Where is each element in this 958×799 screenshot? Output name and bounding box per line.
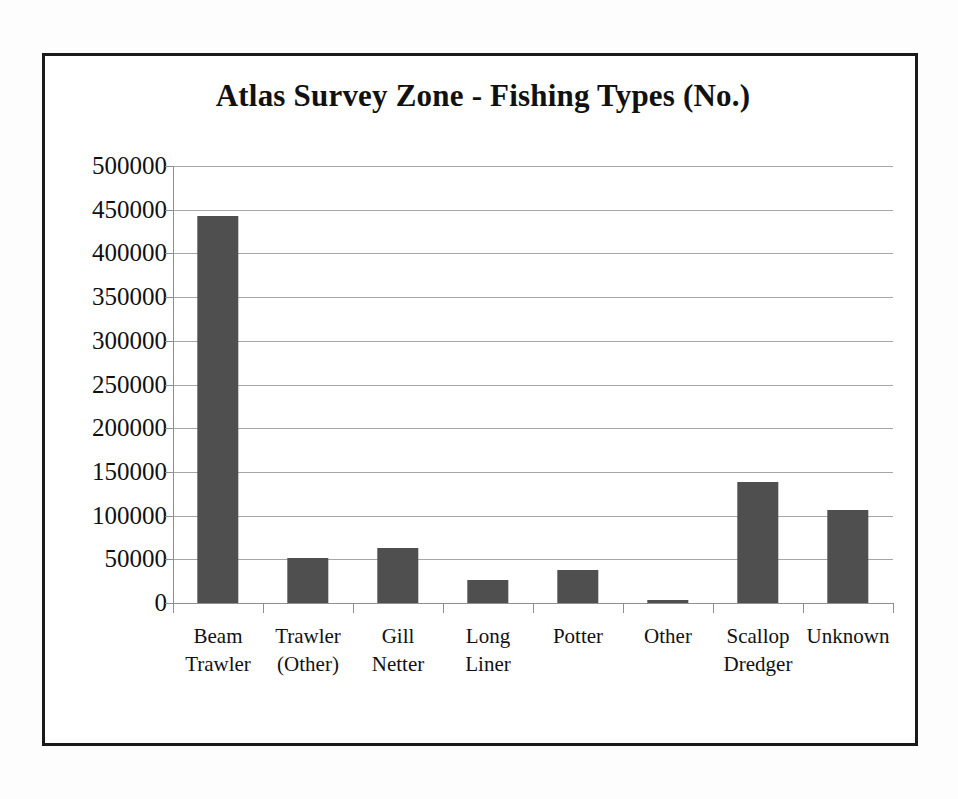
x-axis-category-label-line: Long — [443, 622, 533, 650]
scanned-page-background: Atlas Survey Zone - Fishing Types (No.) … — [0, 0, 958, 799]
y-axis-tick-label: 200000 — [92, 414, 167, 442]
x-axis-category-label-line: Trawler — [173, 650, 263, 678]
x-axis-category-label: BeamTrawler — [173, 622, 263, 678]
y-axis-tick-mark — [165, 297, 174, 298]
bar-slot — [623, 166, 713, 603]
x-axis-category-label-line: Beam — [173, 622, 263, 650]
x-axis-category-label-line: Unknown — [803, 622, 893, 650]
x-axis-tick-mark — [803, 604, 804, 613]
bar-slot — [533, 166, 623, 603]
x-axis-tick-mark — [893, 604, 894, 613]
bar[interactable] — [197, 216, 238, 603]
y-axis-tick-mark — [165, 253, 174, 254]
y-axis-tick-mark — [165, 341, 174, 342]
x-axis-tick-mark — [533, 604, 534, 613]
y-axis-tick-mark — [165, 428, 174, 429]
x-axis-tick-mark — [173, 604, 174, 613]
bar[interactable] — [827, 510, 868, 603]
x-axis-category-label-line: Trawler — [263, 622, 353, 650]
y-axis-tick-label: 250000 — [92, 371, 167, 399]
y-axis-tick-mark — [165, 559, 174, 560]
bar-slot — [803, 166, 893, 603]
x-axis-category-label: Trawler(Other) — [263, 622, 353, 678]
y-axis-tick-label: 450000 — [92, 196, 167, 224]
y-axis-tick-mark — [165, 516, 174, 517]
x-axis-category-label: Other — [623, 622, 713, 650]
bar-series — [173, 166, 893, 603]
x-axis-category-label-line: Gill Netter — [353, 622, 443, 678]
bar-slot — [713, 166, 803, 603]
bar-slot — [443, 166, 533, 603]
chart-title: Atlas Survey Zone - Fishing Types (No.) — [45, 78, 921, 114]
y-axis-tick-mark — [165, 385, 174, 386]
bar[interactable] — [287, 558, 328, 603]
chart-figure: Atlas Survey Zone - Fishing Types (No.) … — [45, 56, 921, 749]
y-axis-tick-mark — [165, 166, 174, 167]
bar-slot — [353, 166, 443, 603]
y-axis-tick-label: 400000 — [92, 239, 167, 267]
x-axis-category-label: Unknown — [803, 622, 893, 650]
y-axis-tick-mark — [165, 210, 174, 211]
x-axis-category-label-line: Potter — [533, 622, 623, 650]
bar-slot — [263, 166, 353, 603]
x-axis-tick-mark — [353, 604, 354, 613]
x-axis-tick-mark — [263, 604, 264, 613]
x-axis-tick-mark — [443, 604, 444, 613]
y-axis-tick-label: 150000 — [92, 458, 167, 486]
y-axis-tick-label: 350000 — [92, 283, 167, 311]
x-axis-category-label: Gill Netter — [353, 622, 443, 678]
bar-slot — [173, 166, 263, 603]
x-axis-category-label: ScallopDredger — [713, 622, 803, 678]
x-axis-category-label-line: Dredger — [713, 650, 803, 678]
bar[interactable] — [557, 570, 598, 603]
x-axis-category-labels: BeamTrawlerTrawler(Other)Gill NetterLong… — [173, 622, 893, 712]
x-axis-category-label: Potter — [533, 622, 623, 650]
y-axis-tick-label: 100000 — [92, 502, 167, 530]
x-axis-category-label-line: Scallop — [713, 622, 803, 650]
y-axis-tick-label: 300000 — [92, 327, 167, 355]
x-axis-category-label-line: Liner — [443, 650, 533, 678]
x-axis-tick-mark — [623, 604, 624, 613]
chart-frame-border: Atlas Survey Zone - Fishing Types (No.) … — [42, 53, 918, 746]
bar[interactable] — [377, 548, 418, 603]
x-axis-category-label-line: Other — [623, 622, 713, 650]
x-axis-tick-mark — [713, 604, 714, 613]
bar[interactable] — [467, 580, 508, 603]
y-axis-tick-mark — [165, 472, 174, 473]
y-axis-tick-labels: 5000004500004000003500003000002500002000… — [55, 166, 167, 603]
x-axis-category-label: LongLiner — [443, 622, 533, 678]
bar[interactable] — [737, 482, 778, 603]
x-axis-category-label-line: (Other) — [263, 650, 353, 678]
y-axis-tick-label: 50000 — [105, 545, 168, 573]
y-axis-tick-label: 500000 — [92, 152, 167, 180]
